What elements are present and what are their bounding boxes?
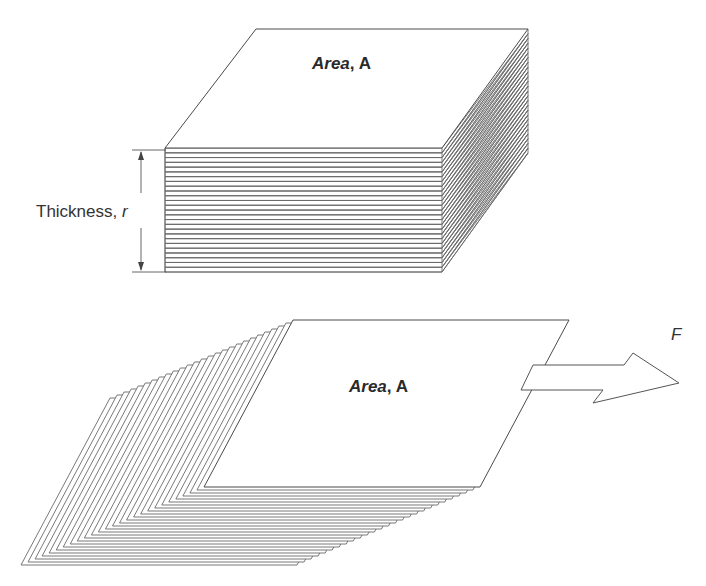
top-block: Area, A	[165, 29, 528, 272]
arrowhead-down-icon	[138, 262, 144, 271]
arrowhead-up-icon	[138, 151, 144, 160]
bottom-block-area-label: Area, A	[348, 377, 408, 396]
shear-diagram: Area, A Thickness, r Area, A F	[0, 0, 706, 586]
thickness-label: Thickness, r	[36, 202, 129, 221]
force-label: F	[671, 325, 683, 344]
bottom-block: Area, A	[21, 320, 569, 565]
top-block-area-label: Area, A	[311, 54, 371, 73]
thickness-dimension: Thickness, r	[36, 150, 166, 272]
